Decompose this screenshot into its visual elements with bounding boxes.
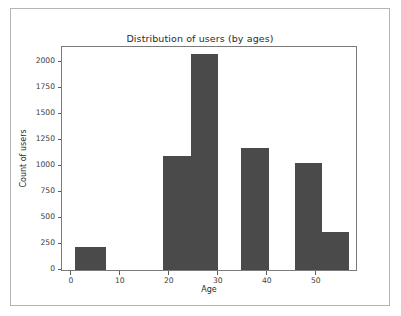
x-tick-label: 50: [302, 276, 330, 285]
y-tick-label: 2000: [36, 56, 55, 65]
y-tick-mark: [58, 217, 62, 218]
chart-title: Distribution of users (by ages): [11, 33, 389, 44]
histogram-bar: [241, 148, 268, 270]
x-tick-mark: [70, 271, 71, 275]
plot-area: [61, 46, 357, 271]
y-tick-mark: [58, 139, 62, 140]
y-tick-label: 750: [41, 186, 56, 195]
y-tick-label: 0: [50, 264, 55, 273]
y-tick-label: 1750: [36, 82, 55, 91]
histogram-bar: [75, 247, 106, 270]
y-tick-mark: [58, 243, 62, 244]
x-tick-mark: [119, 271, 120, 275]
y-tick-mark: [58, 87, 62, 88]
y-tick-mark: [58, 165, 62, 166]
x-tick-label: 10: [106, 276, 134, 285]
y-tick-label: 250: [41, 238, 56, 247]
x-tick-label: 0: [57, 276, 85, 285]
histogram-bar: [295, 163, 322, 270]
y-tick-mark: [58, 113, 62, 114]
x-tick-label: 40: [253, 276, 281, 285]
y-tick-label: 1000: [36, 160, 55, 169]
y-tick-mark: [58, 61, 62, 62]
histogram-bar: [322, 232, 349, 270]
x-tick-mark: [168, 271, 169, 275]
x-tick-mark: [266, 271, 267, 275]
x-tick-mark: [315, 271, 316, 275]
histogram-bar: [191, 54, 218, 270]
x-tick-label: 20: [155, 276, 183, 285]
figure-frame: Distribution of users (by ages) Count of…: [10, 8, 390, 306]
y-tick-mark: [58, 269, 62, 270]
y-tick-label: 500: [41, 212, 56, 221]
y-tick-mark: [58, 191, 62, 192]
x-tick-label: 30: [204, 276, 232, 285]
histogram-bar: [163, 156, 190, 270]
y-tick-label: 1500: [36, 108, 55, 117]
y-tick-label: 1250: [36, 134, 55, 143]
x-tick-mark: [217, 271, 218, 275]
y-axis-label-text: Count of users: [19, 129, 28, 187]
x-axis-label: Age: [61, 285, 357, 294]
y-axis-label: Count of users: [17, 46, 29, 271]
